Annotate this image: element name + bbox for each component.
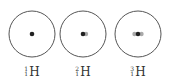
isotope-label: 21H [55,66,111,78]
proton [30,32,35,37]
atom-tritium-diagram [114,0,170,66]
atom-tritium: 31H [114,0,170,83]
atomic-number: 1 [130,71,134,76]
atom-deuterium-diagram [58,0,114,66]
element-symbol: H [135,65,145,79]
atom-deuterium: 21H [58,0,114,83]
element-symbol: H [80,65,90,79]
atom-protium-diagram [4,0,60,66]
isotope-label: 11H [4,66,60,78]
proton [136,32,141,37]
element-symbol: H [29,65,39,79]
proton [81,32,86,37]
atomic-number: 1 [75,71,79,76]
atomic-number: 1 [24,71,28,76]
atom-protium: 11H [4,0,60,83]
isotope-label: 31H [110,66,166,78]
